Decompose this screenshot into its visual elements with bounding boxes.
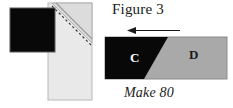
direction-arrow-icon — [127, 27, 180, 34]
right-finished-unit-diagram — [105, 27, 227, 79]
make-quantity-caption: Make 80 — [124, 85, 174, 101]
left-sewing-step-diagram — [10, 3, 92, 100]
black-square-shape — [10, 8, 55, 52]
quilting-figure-container: Figure 3 C D Make 80 — [0, 0, 233, 108]
figure-title: Figure 3 — [112, 1, 164, 18]
piece-label-d: D — [189, 47, 198, 63]
arrow-head — [127, 27, 136, 34]
piece-label-c: C — [130, 50, 139, 66]
